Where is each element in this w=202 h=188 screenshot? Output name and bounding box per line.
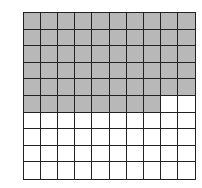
- grid-cell-unshaded: [41, 113, 58, 130]
- grid-cell-shaded: [75, 30, 92, 47]
- grid-cell-unshaded: [58, 129, 75, 146]
- grid-cell-shaded: [110, 96, 127, 113]
- grid-cell-unshaded: [92, 146, 109, 163]
- grid-cell-unshaded: [92, 129, 109, 146]
- grid-cell-shaded: [41, 63, 58, 80]
- grid-cell-shaded: [24, 96, 41, 113]
- grid-cell-unshaded: [41, 146, 58, 163]
- grid-cell-shaded: [161, 63, 178, 80]
- grid-cell-unshaded: [24, 146, 41, 163]
- grid-cell-shaded: [24, 63, 41, 80]
- grid-cell-shaded: [58, 30, 75, 47]
- grid-cell-shaded: [144, 13, 161, 30]
- grid-cell-shaded: [92, 30, 109, 47]
- grid-cell-shaded: [58, 96, 75, 113]
- grid-cell-unshaded: [161, 113, 178, 130]
- grid-cell-unshaded: [75, 129, 92, 146]
- grid-cell-shaded: [127, 79, 144, 96]
- grid-cell-shaded: [41, 30, 58, 47]
- grid-cell-unshaded: [24, 113, 41, 130]
- hundred-grid: [23, 12, 196, 180]
- grid-cell-unshaded: [41, 129, 58, 146]
- grid-cell-shaded: [127, 46, 144, 63]
- grid-cell-unshaded: [110, 113, 127, 130]
- grid-cell-unshaded: [178, 96, 195, 113]
- grid-cell-unshaded: [161, 96, 178, 113]
- grid-cell-shaded: [58, 79, 75, 96]
- grid-cell-unshaded: [110, 162, 127, 179]
- grid-cell-shaded: [24, 13, 41, 30]
- grid-cell-shaded: [24, 30, 41, 47]
- grid-cell-unshaded: [92, 113, 109, 130]
- grid-cell-shaded: [75, 96, 92, 113]
- grid-cell-shaded: [110, 13, 127, 30]
- grid-cell-unshaded: [110, 129, 127, 146]
- grid-cell-shaded: [58, 13, 75, 30]
- grid-cell-unshaded: [127, 146, 144, 163]
- grid-cell-unshaded: [92, 162, 109, 179]
- grid-cell-unshaded: [161, 129, 178, 146]
- grid-cell-shaded: [178, 13, 195, 30]
- grid-cell-shaded: [178, 30, 195, 47]
- grid-cell-unshaded: [58, 146, 75, 163]
- grid-cell-shaded: [110, 46, 127, 63]
- grid-cell-unshaded: [144, 162, 161, 179]
- grid-cell-unshaded: [24, 162, 41, 179]
- grid-cell-unshaded: [58, 162, 75, 179]
- grid-cell-shaded: [144, 30, 161, 47]
- grid-cell-unshaded: [144, 113, 161, 130]
- grid-cell-shaded: [75, 13, 92, 30]
- grid-cell-shaded: [24, 46, 41, 63]
- grid-cell-shaded: [127, 63, 144, 80]
- grid-cell-shaded: [92, 13, 109, 30]
- grid-cell-unshaded: [178, 162, 195, 179]
- grid-cell-shaded: [144, 46, 161, 63]
- grid-cell-unshaded: [127, 113, 144, 130]
- grid-cell-shaded: [58, 46, 75, 63]
- grid-cell-unshaded: [178, 113, 195, 130]
- grid-cell-shaded: [144, 96, 161, 113]
- grid-cell-shaded: [92, 63, 109, 80]
- grid-cell-unshaded: [110, 146, 127, 163]
- grid-cell-shaded: [41, 96, 58, 113]
- grid-cell-unshaded: [144, 146, 161, 163]
- grid-cell-unshaded: [75, 162, 92, 179]
- grid-cell-shaded: [178, 46, 195, 63]
- grid-cell-shaded: [110, 79, 127, 96]
- grid-cell-shaded: [127, 96, 144, 113]
- grid-cell-shaded: [127, 30, 144, 47]
- grid-cell-shaded: [92, 96, 109, 113]
- grid-cell-shaded: [75, 46, 92, 63]
- grid-cell-unshaded: [127, 162, 144, 179]
- grid-cell-shaded: [92, 46, 109, 63]
- grid-cell-unshaded: [161, 146, 178, 163]
- grid-cell-shaded: [178, 79, 195, 96]
- grid-cell-shaded: [58, 63, 75, 80]
- grid-cell-unshaded: [41, 162, 58, 179]
- grid-cell-unshaded: [161, 162, 178, 179]
- grid-cell-shaded: [75, 79, 92, 96]
- grid-cell-shaded: [178, 63, 195, 80]
- grid-cell-shaded: [92, 79, 109, 96]
- grid-cell-unshaded: [24, 129, 41, 146]
- grid-cell-shaded: [41, 13, 58, 30]
- grid-cell-unshaded: [75, 113, 92, 130]
- grid-cell-shaded: [24, 79, 41, 96]
- grid-cell-shaded: [41, 46, 58, 63]
- grid-cell-unshaded: [144, 129, 161, 146]
- grid-cell-shaded: [161, 30, 178, 47]
- grid-cell-shaded: [144, 79, 161, 96]
- grid-cell-shaded: [161, 79, 178, 96]
- grid-cell-unshaded: [127, 129, 144, 146]
- grid-cell-shaded: [110, 63, 127, 80]
- grid-cell-shaded: [161, 46, 178, 63]
- grid-cell-unshaded: [58, 113, 75, 130]
- grid-cell-shaded: [127, 13, 144, 30]
- grid-cell-shaded: [161, 13, 178, 30]
- grid-cell-unshaded: [178, 146, 195, 163]
- grid-cell-shaded: [110, 30, 127, 47]
- grid-cell-unshaded: [178, 129, 195, 146]
- grid-cell-shaded: [75, 63, 92, 80]
- grid-cell-shaded: [41, 79, 58, 96]
- grid-cell-shaded: [144, 63, 161, 80]
